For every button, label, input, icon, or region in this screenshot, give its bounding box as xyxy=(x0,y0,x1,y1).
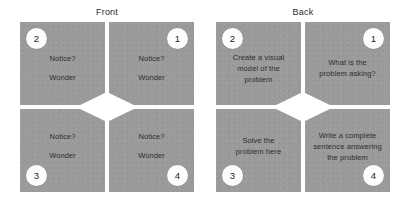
front-quadrant-1[interactable]: Notice? Wonder 1 xyxy=(109,22,194,105)
quadrant-text-line: sentence answering xyxy=(309,140,386,151)
quadrant-text-line: problem xyxy=(220,74,297,85)
front-quadrant-3-text: Notice? Wonder xyxy=(24,131,101,161)
back-quadrant-1[interactable]: What is the problem asking? 1 xyxy=(305,22,390,105)
back-quadrant-4[interactable]: Write a complete sentence answering the … xyxy=(305,109,390,192)
back-quadrant-1-text: What is the problem asking? xyxy=(309,57,386,79)
front-panel-label: Front xyxy=(20,7,194,18)
quadrant-text-line: What is the xyxy=(309,57,386,68)
quadrant-text-line: problem asking? xyxy=(309,68,386,79)
back-quadrant-3-text: Solve the problem here xyxy=(220,135,297,157)
back-quadrant-3[interactable]: Solve the problem here 3 xyxy=(216,109,301,192)
back-panel-label: Back xyxy=(216,7,390,18)
quadrant-text-line: Wonder xyxy=(113,150,190,161)
back-quadrant-grid: Create a visual model of the problem 2 W… xyxy=(216,22,390,192)
back-quadrant-4-text: Write a complete sentence answering the … xyxy=(309,129,386,162)
front-quadrant-3-badge: 3 xyxy=(26,165,47,186)
front-quadrant-3[interactable]: Notice? Wonder 3 xyxy=(20,109,105,192)
quadrant-text-line: Notice? xyxy=(113,131,190,142)
back-panel-group: Back Create a visual model of the proble… xyxy=(216,22,390,192)
quadrant-text-line: the problem xyxy=(309,151,386,162)
back-quadrant-2-badge: 2 xyxy=(222,28,243,49)
quadrant-text-line: Wonder xyxy=(24,150,101,161)
back-quadrant-4-badge: 4 xyxy=(363,165,384,186)
front-quadrant-grid: Notice? Wonder 2 Notice? Wonder 1 Notice… xyxy=(20,22,194,192)
front-quadrant-4-badge: 4 xyxy=(167,165,188,186)
quadrant-text-line: Write a complete xyxy=(309,129,386,140)
quadrant-text-line: problem here xyxy=(220,146,297,157)
front-quadrant-4[interactable]: Notice? Wonder 4 xyxy=(109,109,194,192)
back-quadrant-1-badge: 1 xyxy=(363,28,384,49)
quadrant-text-line: Create a visual xyxy=(220,52,297,63)
front-quadrant-2-text: Notice? Wonder xyxy=(24,53,101,83)
foldable-template-diagram: Front Notice? Wonder 2 Notice? Wonder 1 … xyxy=(0,0,410,206)
front-quadrant-2-badge: 2 xyxy=(26,28,47,49)
front-quadrant-4-text: Notice? Wonder xyxy=(113,131,190,161)
front-quadrant-1-text: Notice? Wonder xyxy=(113,53,190,83)
quadrant-text-line: Wonder xyxy=(113,72,190,83)
front-panel-group: Front Notice? Wonder 2 Notice? Wonder 1 … xyxy=(20,22,194,192)
back-quadrant-2[interactable]: Create a visual model of the problem 2 xyxy=(216,22,301,105)
quadrant-text-line: Solve the xyxy=(220,135,297,146)
front-quadrant-1-badge: 1 xyxy=(167,28,188,49)
front-quadrant-2[interactable]: Notice? Wonder 2 xyxy=(20,22,105,105)
quadrant-text-line: Notice? xyxy=(24,131,101,142)
back-quadrant-2-text: Create a visual model of the problem xyxy=(220,52,297,85)
quadrant-text-line: model of the xyxy=(220,63,297,74)
quadrant-text-line: Wonder xyxy=(24,72,101,83)
quadrant-text-line: Notice? xyxy=(113,53,190,64)
back-quadrant-3-badge: 3 xyxy=(222,165,243,186)
quadrant-text-line: Notice? xyxy=(24,53,101,64)
